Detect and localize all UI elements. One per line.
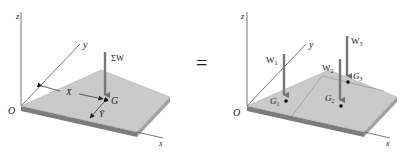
centroid-g3-dot [346,80,350,84]
w1-label: W1 [266,55,278,66]
origin-label: O [8,105,15,116]
g3-label: G3 [353,71,363,82]
centroid-g1-dot [284,99,288,103]
x-axis-right [364,132,390,138]
centroid-equivalence-diagram: z y x O ΣW G X̄ Ȳ = z y x [0,0,402,161]
y-label: y [82,39,88,50]
left-figure: z y x O ΣW G X̄ Ȳ [8,12,170,148]
centroid-g2-dot [339,104,343,108]
z-label-right: z [240,12,245,21]
xbar-dimension [42,86,60,91]
y-label-right: y [308,39,314,50]
g-label: G [111,95,118,106]
x-label-right: x [385,139,390,148]
sum-w-label: ΣW [111,53,124,63]
equals-sign: = [196,52,207,74]
centroid-g-dot [104,98,108,102]
origin-label-right: O [233,107,240,118]
w3-label: W3 [351,36,363,47]
z-label: z [15,12,20,21]
x-label: x [158,139,163,148]
xbar-label: X̄ [65,87,72,97]
x-axis [137,132,163,138]
w2-label: W2 [322,63,334,74]
right-figure: z y x O W1 W2 W3 G1 G2 G3 [233,12,397,148]
